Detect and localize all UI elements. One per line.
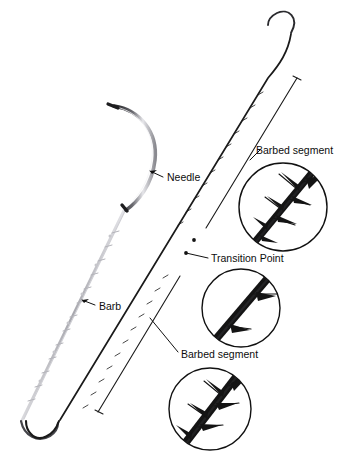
label-barbed-segment-upper: Barbed segment	[256, 144, 333, 156]
label-transition-point: Transition Point	[211, 252, 284, 264]
magnified-barbed-segment-top	[239, 163, 327, 251]
label-barbed-segment-lower: Barbed segment	[181, 348, 258, 360]
label-needle: Needle	[167, 171, 200, 183]
magnified-barbed-segment-bottom	[169, 368, 251, 450]
label-barb: Barb	[99, 300, 121, 312]
barbed-suture-figure: Needle Barb Transition Point Barbed segm…	[0, 0, 350, 454]
magnified-transition-point	[202, 269, 280, 347]
